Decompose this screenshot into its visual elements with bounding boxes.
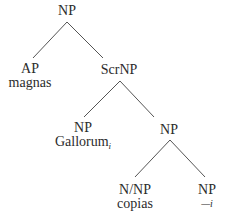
edge-scrnp-np-inner (120, 81, 154, 117)
node-scrnp: ScrNP (101, 63, 138, 77)
trace-dash: — (201, 198, 210, 209)
node-category: NP (55, 121, 111, 135)
node-word: copias (117, 197, 153, 211)
coindex-subscript: i (210, 198, 213, 209)
edge-root-scrnp (67, 22, 103, 58)
edge-root-ap (33, 22, 67, 58)
node-ap: AP magnas (9, 62, 52, 90)
node-category: NP (58, 4, 76, 18)
node-np-trace: NP —i (198, 183, 216, 211)
node-category: NP (198, 183, 216, 197)
edge-np-inner-n-np (135, 140, 170, 177)
node-word: magnas (9, 76, 52, 90)
node-n-np: N/NP copias (117, 183, 153, 211)
edge-np-inner-np-trace (170, 140, 205, 177)
node-word: Gallorum (55, 134, 109, 149)
syntax-tree-diagram: NP AP magnas ScrNP NP Gallorumi NP N/NP … (0, 0, 232, 221)
node-np-gallorum: NP Gallorumi (55, 121, 111, 149)
coindex-subscript: i (109, 141, 112, 151)
node-category: NP (160, 123, 178, 137)
node-word-with-index: Gallorumi (55, 135, 111, 149)
node-trace: —i (198, 197, 216, 211)
node-np-inner: NP (160, 123, 178, 137)
node-category: N/NP (117, 183, 153, 197)
node-category: AP (9, 62, 52, 76)
edge-scrnp-np-gallorum (84, 81, 120, 117)
node-category: ScrNP (101, 63, 138, 77)
node-root-np: NP (58, 4, 76, 18)
